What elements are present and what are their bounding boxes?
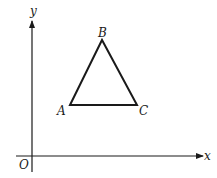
vertex-label-c: C	[139, 104, 148, 118]
vertex-label-a: A	[56, 104, 66, 118]
triangle-abc	[70, 40, 137, 105]
x-axis-label: x	[204, 149, 211, 163]
coordinate-diagram: y x O A B C	[0, 0, 217, 178]
vertex-label-b: B	[97, 26, 107, 40]
origin-label: O	[19, 158, 29, 172]
y-axis-label: y	[29, 4, 37, 18]
